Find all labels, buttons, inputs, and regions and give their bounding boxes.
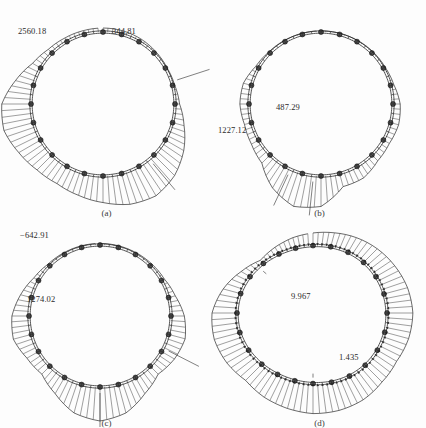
value-label-a-0: 2560.18 [18, 26, 46, 36]
panel-b-diagram [213, 8, 426, 222]
scan-header-remnant [0, 0, 426, 8]
panel-caption-a: (a) [0, 208, 213, 218]
panel-b: 487.29 1227.12 (b) [213, 8, 426, 222]
value-label-a-1: 344.81 [112, 26, 136, 36]
value-label-c-1: 1274.02 [27, 294, 55, 304]
panel-d-diagram [213, 218, 426, 428]
panel-c-diagram [0, 218, 213, 428]
panel-c: −642.91 1274.02 (c) [0, 218, 213, 428]
panel-a: 2560.18 344.81 (a) [0, 8, 213, 222]
value-label-c-0: −642.91 [20, 230, 49, 240]
panel-caption-b: (b) [213, 208, 426, 218]
value-label-d-1: 1.435 [339, 352, 359, 362]
panel-caption-c: (c) [0, 418, 213, 428]
panel-caption-d: (d) [213, 418, 426, 428]
figure-sheet: 2560.18 344.81 (a) 487.29 1227.12 (b) −6… [0, 0, 426, 428]
panel-a-diagram [0, 8, 213, 222]
value-label-b-0: 487.29 [276, 102, 300, 112]
value-label-d-0: 9.967 [291, 291, 311, 301]
panel-d: 9.967 1.435 (d) [213, 218, 426, 428]
value-label-b-1: 1227.12 [218, 125, 246, 135]
